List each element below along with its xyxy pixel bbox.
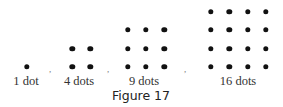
dot: [125, 46, 130, 51]
dot: [263, 27, 268, 32]
dot: [70, 64, 75, 69]
group-label-16-dots: 16 dots: [220, 75, 256, 88]
dot: [88, 64, 93, 69]
dot: [162, 27, 167, 32]
dot: [208, 64, 213, 69]
dot: [227, 64, 232, 69]
dot: [227, 46, 232, 51]
dot: [125, 27, 130, 32]
dot: [208, 46, 213, 51]
dot: [143, 27, 148, 32]
dot: [162, 64, 167, 69]
dot: [208, 27, 213, 32]
figure-caption: Figure 17: [112, 90, 170, 103]
dot: [24, 64, 29, 69]
dot: [263, 46, 268, 51]
dot: [70, 46, 75, 51]
dot: [143, 46, 148, 51]
dot: [227, 9, 232, 14]
dot: [245, 64, 250, 69]
separator-comma: ,: [49, 65, 51, 74]
group-label-1-dot: 1 dot: [13, 75, 38, 88]
dot: [208, 9, 213, 14]
dot: [88, 46, 93, 51]
dot: [245, 9, 250, 14]
dot: [162, 46, 167, 51]
group-label-4-dots: 4 dots: [64, 75, 94, 88]
dot: [227, 27, 232, 32]
group-label-9-dots: 9 dots: [129, 75, 159, 88]
dot: [263, 64, 268, 69]
dot: [245, 46, 250, 51]
dot: [125, 64, 130, 69]
dot: [245, 27, 250, 32]
dot: [263, 9, 268, 14]
separator-comma: ,: [107, 65, 109, 74]
dot: [143, 64, 148, 69]
square-numbers-figure: , , , 1 dot 4 dots 9 dots 16 dots Figure…: [0, 0, 283, 107]
separator-comma: ,: [184, 65, 186, 74]
